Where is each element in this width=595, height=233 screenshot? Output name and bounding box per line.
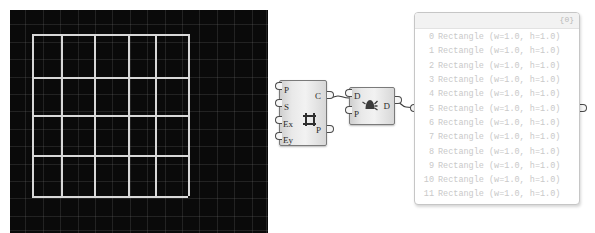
panel-row-index: 10 [415,175,438,185]
panel-row-index: 3 [415,75,438,85]
panel-row-list: 0Rectangle (w=1.0, h=1.0)1Rectangle (w=1… [415,29,579,202]
panel-row-index: 9 [415,161,438,171]
panel-row-index: 1 [415,46,438,56]
panel-row-value: Rectangle (w=1.0, h=1.0) [438,61,560,71]
panel-row: 8Rectangle (w=1.0, h=1.0) [415,144,579,158]
panel-row: 9Rectangle (w=1.0, h=1.0) [415,159,579,173]
node-input-label-p: P [354,110,359,119]
node-input-label-ex: Ex [283,120,293,129]
rhino-3d-viewport[interactable] [10,10,268,233]
dispatch-icon [362,97,379,115]
panel-row-value: Rectangle (w=1.0, h=1.0) [438,46,560,56]
panel-row-index: 0 [415,32,438,42]
panel-row-index: 11 [415,189,438,199]
panel-row-index: 8 [415,147,438,157]
panel-row-value: Rectangle (w=1.0, h=1.0) [438,89,560,99]
node-input-label-p: P [284,86,289,95]
panel-row: 6Rectangle (w=1.0, h=1.0) [415,116,579,130]
panel-row: 2Rectangle (w=1.0, h=1.0) [415,59,579,73]
panel-row: 5Rectangle (w=1.0, h=1.0) [415,101,579,115]
geometry-hline-4 [32,196,188,198]
panel-header: {0} [415,13,579,29]
node-output-label-c: C [315,92,321,101]
node-input-label-s: S [284,103,289,112]
viewport-geometry [10,10,268,233]
port-in-dispatch-d[interactable] [345,89,352,97]
node-output-label-p: P [316,126,321,135]
panel-row: 11Rectangle (w=1.0, h=1.0) [415,187,579,201]
panel-row-index: 4 [415,89,438,99]
panel-row: 3Rectangle (w=1.0, h=1.0) [415,73,579,87]
panel-row-value: Rectangle (w=1.0, h=1.0) [438,175,560,185]
panel-row-index: 7 [415,132,438,142]
port-in-rectgrid-ex[interactable] [275,116,282,124]
geometry-hline-2 [32,115,188,117]
port-in-rectgrid-p[interactable] [275,82,282,90]
panel-row-value: Rectangle (w=1.0, h=1.0) [438,118,560,128]
output-panel[interactable]: {0} 0Rectangle (w=1.0, h=1.0)1Rectangle … [414,12,580,205]
node-dispatch[interactable]: D P D [349,87,395,125]
panel-row: 1Rectangle (w=1.0, h=1.0) [415,44,579,58]
geometry-hline-3 [32,155,188,157]
geometry-hline-0 [32,34,188,36]
panel-row: 10Rectangle (w=1.0, h=1.0) [415,173,579,187]
panel-row: 7Rectangle (w=1.0, h=1.0) [415,130,579,144]
panel-row-value: Rectangle (w=1.0, h=1.0) [438,189,560,199]
panel-row-value: Rectangle (w=1.0, h=1.0) [438,132,560,142]
port-out-panel[interactable] [580,104,587,112]
panel-row-value: Rectangle (w=1.0, h=1.0) [438,104,560,114]
panel-path-label: {0} [560,15,574,24]
panel-row-value: Rectangle (w=1.0, h=1.0) [438,161,560,171]
port-in-rectgrid-s[interactable] [275,99,282,107]
port-out-rectgrid-p[interactable] [327,125,334,133]
node-output-label-d: D [384,102,391,111]
panel-row-index: 2 [415,61,438,71]
node-input-label-ey: Ey [283,136,293,145]
panel-row-index: 5 [415,104,438,114]
panel-row-value: Rectangle (w=1.0, h=1.0) [438,147,560,157]
port-in-dispatch-p[interactable] [345,106,352,114]
panel-row-value: Rectangle (w=1.0, h=1.0) [438,32,560,42]
node-input-label-d: D [354,92,361,101]
geometry-hline-1 [32,77,188,79]
panel-row-index: 6 [415,118,438,128]
panel-row: 0Rectangle (w=1.0, h=1.0) [415,30,579,44]
node-rectangular-grid[interactable]: P S Ex Ey C P [279,80,327,146]
port-in-rectgrid-ey[interactable] [275,132,282,140]
panel-row: 4Rectangle (w=1.0, h=1.0) [415,87,579,101]
panel-row-value: Rectangle (w=1.0, h=1.0) [438,75,560,85]
geometry-vline-5 [188,34,190,196]
